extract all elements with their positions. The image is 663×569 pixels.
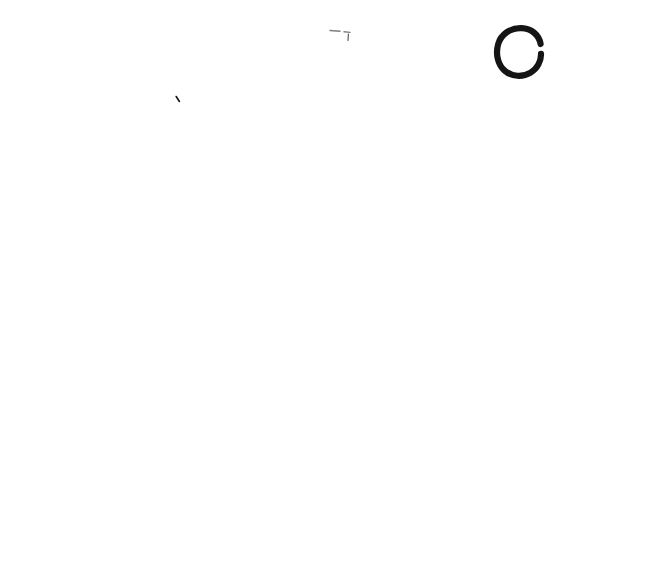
rectangle-bottom-edge [28,547,348,554]
triangle-pointing-right-shape[interactable] [157,92,241,171]
triangle-right-apex-notch [176,97,179,102]
rectangle-top-edge-fade [330,31,350,33]
triangle-right-edge-left [158,92,180,171]
triangle-left-edge-upper [587,169,652,207]
sketch-canvas [0,0,663,569]
triangle-right-edge-lower [157,133,241,171]
triangle-pointing-left-shape[interactable] [587,169,653,241]
rectangle-left-edge [28,30,34,554]
rectangle-shape[interactable] [28,28,351,554]
triangle-left-edge-lower [587,198,644,239]
rectangle-top-edge [29,28,349,36]
rectangle-right-edge [345,40,350,549]
triangle-left-edge-right [639,169,653,241]
sketch-drawing [0,0,663,569]
circle-shape[interactable] [497,28,541,76]
triangle-right-edge-upper [172,93,241,143]
